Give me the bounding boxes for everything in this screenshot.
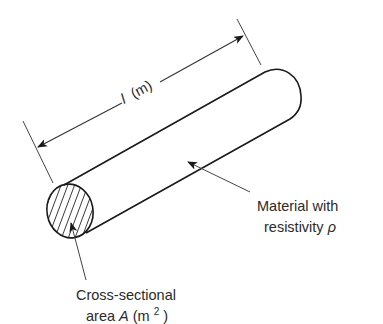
resistivity-prefix: resistivity — [264, 219, 328, 235]
area-label-line1: Cross-sectional — [76, 287, 176, 303]
material-label-line1: Material with — [257, 198, 338, 214]
dimension-line-left — [38, 103, 122, 147]
area-unit-close: ) — [163, 308, 168, 324]
area-unit-open: (m — [133, 308, 150, 324]
material-leader-arrow — [188, 162, 250, 192]
length-label: l (m) — [118, 77, 155, 107]
area-unit-exp: 2 — [154, 306, 160, 317]
cross-section-face — [18, 166, 114, 268]
resistivity-symbol: ρ — [327, 219, 336, 235]
material-label: Material with — [257, 198, 338, 214]
resistivity-label: resistivity ρ — [264, 219, 336, 235]
left-extension-line — [23, 121, 53, 183]
right-extension-line — [237, 19, 261, 65]
area-symbol: A — [118, 308, 129, 324]
area-label-line2: area A (m 2 ) — [86, 302, 168, 324]
dimension-line-right — [160, 36, 243, 82]
area-prefix: area — [86, 308, 119, 324]
length-unit: (m) — [128, 77, 155, 101]
resistivity-cylinder-diagram: l (m) Material with resistivity ρ — [0, 0, 383, 324]
